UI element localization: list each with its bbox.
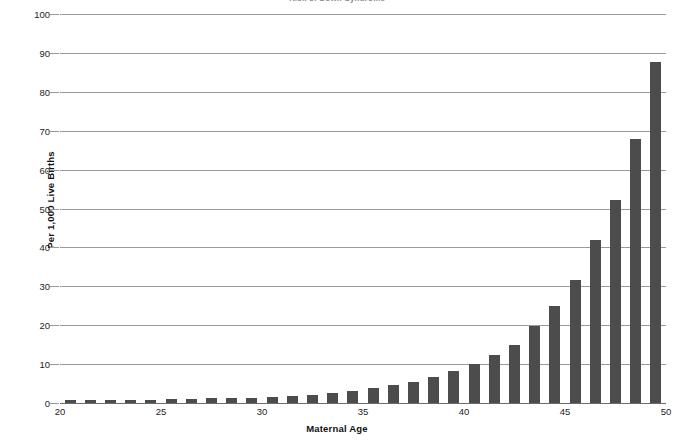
y-tick-label: 60 bbox=[10, 164, 50, 175]
x-tick-label: 45 bbox=[560, 406, 571, 417]
y-tick-mark bbox=[50, 131, 59, 132]
y-tick-mark bbox=[50, 14, 59, 15]
gridline bbox=[60, 170, 666, 171]
y-tick-label: 40 bbox=[10, 242, 50, 253]
y-tick-label: 10 bbox=[10, 359, 50, 370]
bar bbox=[610, 200, 621, 403]
plot-area bbox=[60, 14, 666, 403]
bar bbox=[388, 385, 399, 403]
y-tick-mark bbox=[50, 325, 59, 326]
y-tick-mark bbox=[50, 92, 59, 93]
gridline bbox=[60, 247, 666, 248]
x-tick-label: 40 bbox=[459, 406, 470, 417]
bar bbox=[307, 395, 318, 403]
x-tick-label: 50 bbox=[661, 406, 672, 417]
chart-title: Risk of Down Syndrome bbox=[0, 0, 674, 3]
y-tick-mark bbox=[50, 364, 59, 365]
x-tick-label: 20 bbox=[55, 406, 66, 417]
bar bbox=[650, 62, 661, 403]
gridline bbox=[60, 53, 666, 54]
y-tick-mark bbox=[50, 403, 59, 404]
y-tick-label: 90 bbox=[10, 47, 50, 58]
bar bbox=[408, 382, 419, 403]
y-tick-label: 30 bbox=[10, 281, 50, 292]
x-tick-label: 30 bbox=[257, 406, 268, 417]
x-axis-label: Maternal Age bbox=[0, 423, 674, 434]
y-tick-mark bbox=[50, 53, 59, 54]
y-tick-label: 20 bbox=[10, 320, 50, 331]
bar bbox=[327, 393, 338, 403]
y-tick-mark bbox=[50, 247, 59, 248]
y-tick-label: 100 bbox=[10, 9, 50, 20]
bar bbox=[347, 391, 358, 403]
x-axis-line bbox=[60, 403, 666, 404]
y-tick-label: 70 bbox=[10, 125, 50, 136]
bar bbox=[489, 355, 500, 403]
y-tick-label: 0 bbox=[10, 398, 50, 409]
bar bbox=[448, 371, 459, 403]
y-tick-mark bbox=[50, 170, 59, 171]
bar bbox=[469, 364, 480, 403]
x-tick-label: 25 bbox=[156, 406, 167, 417]
y-tick-mark bbox=[50, 209, 59, 210]
y-tick-mark bbox=[50, 286, 59, 287]
bar bbox=[368, 388, 379, 403]
bar bbox=[529, 326, 540, 403]
x-tick-label: 35 bbox=[358, 406, 369, 417]
gridline bbox=[60, 14, 666, 15]
bar bbox=[630, 139, 641, 403]
gridline bbox=[60, 209, 666, 210]
y-tick-label: 50 bbox=[10, 203, 50, 214]
gridline bbox=[60, 131, 666, 132]
y-axis-ticks: 0102030405060708090100 bbox=[0, 14, 50, 403]
chart-figure: Risk of Down Syndrome Per 1,000 Live Bir… bbox=[0, 0, 674, 443]
bar bbox=[287, 396, 298, 403]
bar bbox=[570, 280, 581, 403]
bar bbox=[590, 240, 601, 403]
bar bbox=[549, 306, 560, 403]
bar bbox=[428, 377, 439, 403]
y-tick-label: 80 bbox=[10, 86, 50, 97]
bar bbox=[509, 345, 520, 403]
gridline bbox=[60, 92, 666, 93]
